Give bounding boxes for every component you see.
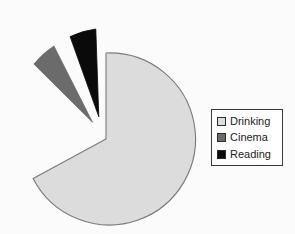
legend-swatch-reading-icon xyxy=(217,150,226,159)
chart-legend: Drinking Cinema Reading xyxy=(211,109,283,166)
pie-chart-page: Drinking Cinema Reading xyxy=(0,0,295,234)
legend-item-cinema[interactable]: Cinema xyxy=(217,131,278,145)
legend-item-reading[interactable]: Reading xyxy=(217,147,278,161)
legend-item-drinking[interactable]: Drinking xyxy=(217,114,278,128)
legend-label-drinking: Drinking xyxy=(230,116,270,127)
legend-swatch-drinking-icon xyxy=(217,117,226,126)
legend-label-cinema: Cinema xyxy=(230,132,268,143)
pie-slices xyxy=(33,29,195,225)
legend-swatch-cinema-icon xyxy=(217,133,226,142)
legend-label-reading: Reading xyxy=(230,149,271,160)
